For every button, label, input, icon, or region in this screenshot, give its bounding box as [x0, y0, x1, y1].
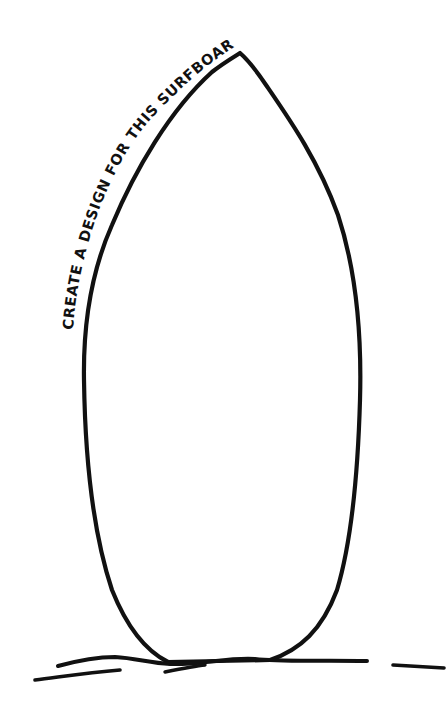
ground-line-lower-left [35, 670, 120, 680]
surfboard-illustration: CREATE A DESIGN FOR THIS SURFBOARD. [0, 0, 447, 720]
prompt-text: CREATE A DESIGN FOR THIS SURFBOARD. [0, 0, 237, 330]
ground-line-right-dash [393, 665, 444, 668]
ground-line-under-tail [165, 665, 205, 672]
drawing-canvas: CREATE A DESIGN FOR THIS SURFBOARD. [0, 0, 447, 720]
ground-line-main [58, 657, 367, 666]
